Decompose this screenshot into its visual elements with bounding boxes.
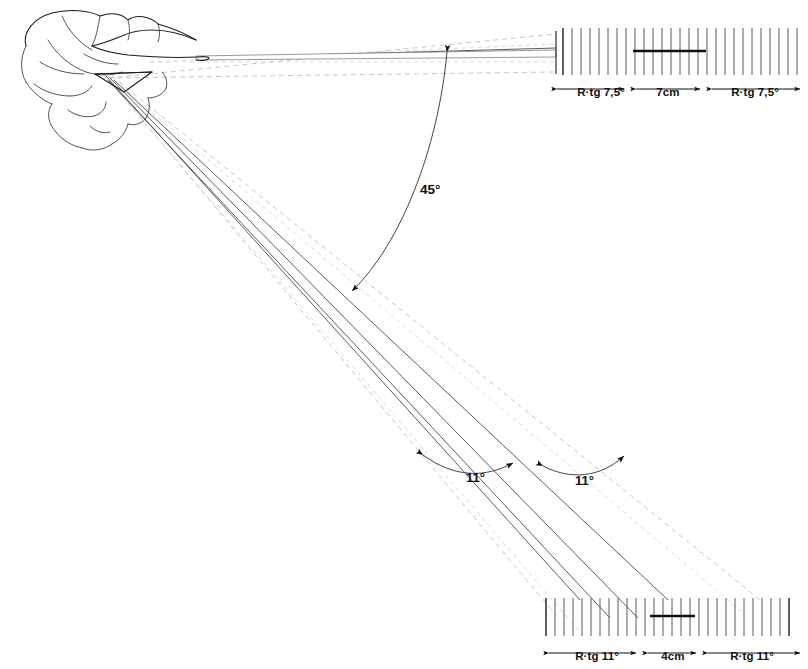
upper-beam-cone — [108, 31, 556, 78]
label-bottom-scale-center: 4cm — [650, 646, 696, 664]
label-top-scale-center: 7cm — [638, 82, 698, 100]
figure-root: 45° 11° 11° R·tg 7,5° 7cm R·tg 7,5° R·tg… — [0, 0, 808, 669]
top-measuring-scale — [563, 28, 797, 75]
label-bottom-scale-left: R·tg 11° — [557, 646, 637, 664]
lower-beam-cone — [104, 74, 760, 630]
label-angle-11-left: 11° — [466, 468, 485, 486]
angle-arc-45 — [352, 52, 447, 291]
label-bottom-scale-right: R·tg 11° — [712, 646, 792, 664]
label-angle-11-right: 11° — [575, 471, 594, 489]
sonar-beam-diagram — [0, 0, 808, 669]
label-top-scale-left: R·tg 7,5° — [566, 82, 636, 100]
bottom-measuring-scale — [546, 598, 789, 636]
dolphin-skull-outline — [22, 10, 210, 150]
label-top-scale-right: R·tg 7,5° — [715, 82, 795, 100]
label-angle-45: 45° — [420, 180, 440, 198]
